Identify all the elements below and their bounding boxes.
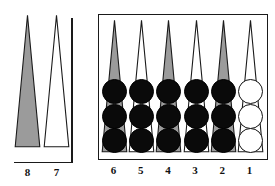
point-triangle-filled [14, 14, 41, 148]
checker-white [238, 128, 263, 153]
checker-black [184, 79, 209, 104]
point-label-7: 7 [43, 166, 70, 178]
point-label-1: 1 [236, 164, 263, 176]
checker-white [238, 79, 263, 104]
point-6[interactable] [101, 19, 128, 153]
point-8[interactable] [14, 14, 41, 148]
board-divider-bar [71, 18, 73, 163]
home-board-panel [98, 14, 268, 160]
checker-black [184, 128, 209, 153]
checker-black [102, 79, 127, 104]
point-1[interactable] [237, 19, 264, 153]
checker-black [184, 104, 209, 129]
outer-baseline [14, 162, 72, 163]
backgammon-diagram: 87654321 [0, 0, 275, 186]
checker-white [238, 104, 263, 129]
outer-points-panel: 87 [14, 14, 72, 162]
point-label-2: 2 [209, 164, 236, 176]
checker-black [211, 104, 236, 129]
checker-black [156, 104, 181, 129]
checker-black [129, 104, 154, 129]
point-5[interactable] [128, 19, 155, 153]
point-triangle-open [43, 14, 70, 148]
checker-black [211, 79, 236, 104]
point-4[interactable] [155, 19, 182, 153]
point-7[interactable] [43, 14, 70, 148]
point-label-5: 5 [127, 164, 154, 176]
point-2[interactable] [210, 19, 237, 153]
point-label-3: 3 [182, 164, 209, 176]
checker-black [211, 128, 236, 153]
checker-black [102, 104, 127, 129]
point-3[interactable] [183, 19, 210, 153]
checker-black [102, 128, 127, 153]
point-label-8: 8 [14, 166, 41, 178]
point-label-4: 4 [154, 164, 181, 176]
point-label-6: 6 [100, 164, 127, 176]
